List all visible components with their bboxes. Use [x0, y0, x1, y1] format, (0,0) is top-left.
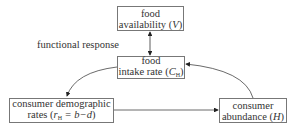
node-line1: consumer: [220, 100, 286, 111]
node-line2: availability (V): [118, 19, 183, 30]
node-line1: food: [118, 8, 183, 19]
node-line2: abundance (H): [220, 111, 286, 122]
edge-intake-demographic: [67, 67, 117, 96]
node-line1: food: [118, 55, 184, 66]
node-line2: intake rate (CH): [118, 66, 184, 81]
edge-label-functional-response: functional response: [37, 39, 119, 50]
node-food-intake-rate: food intake rate (CH): [117, 56, 185, 79]
edge-abundance-intake: [186, 64, 253, 98]
node-line1: consumer demographic: [10, 98, 113, 109]
node-consumer-abundance: consumer abundance (H): [219, 98, 287, 123]
node-line2: rates (rH = b−d): [10, 109, 113, 124]
node-food-availability: food availability (V): [117, 6, 184, 31]
node-consumer-demographic-rates: consumer demographic rates (rH = b−d): [9, 98, 114, 123]
